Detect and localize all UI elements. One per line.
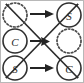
node-mapping-diagram: S C S C xyxy=(0,0,84,83)
arrow-bottom xyxy=(30,64,54,72)
node-right-middle[interactable] xyxy=(57,29,81,53)
node-left-top[interactable] xyxy=(3,3,27,27)
node-right-top[interactable]: S xyxy=(57,3,81,27)
arrow-top-head xyxy=(45,10,54,18)
arrow-top xyxy=(30,10,54,18)
node-right-middle-circle xyxy=(57,29,81,53)
diagram-canvas: S C S C xyxy=(0,0,84,83)
arrow-bottom-head xyxy=(45,64,54,72)
node-left-middle-label: C xyxy=(11,36,19,48)
node-left-top-circle xyxy=(3,3,27,27)
node-left-middle[interactable]: C xyxy=(3,29,27,53)
